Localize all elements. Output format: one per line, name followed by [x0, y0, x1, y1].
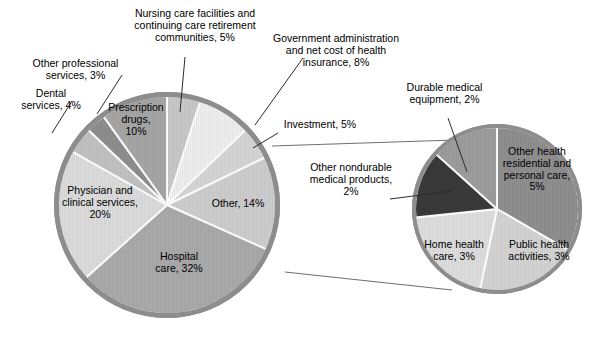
label-other-nondurable: Other nondurable medical products, 2% [297, 162, 405, 197]
label-other-health-residential: Other health residential and personal ca… [494, 146, 580, 193]
label-other-professional: Other professional services, 3% [18, 58, 133, 82]
label-other: Other, 14% [202, 198, 274, 210]
pie-chart-figure: Nursing care facilities and continuing c… [0, 0, 601, 344]
label-hospital-care: Hospital care, 32% [139, 251, 219, 275]
label-dental-services: Dental services, 4% [5, 88, 97, 112]
label-investment: Investment, 5% [275, 119, 365, 131]
label-public-health-activities: Public health activities, 3% [501, 239, 577, 263]
label-physician-clinical: Physician and clinical services, 20% [50, 185, 150, 220]
label-government-admin: Government administration and net cost o… [256, 33, 416, 68]
label-prescription-drugs: Prescription drugs, 10% [95, 102, 177, 137]
label-home-health-care: Home health care, 3% [416, 239, 492, 263]
label-durable-medical-equipment: Durable medical equipment, 2% [392, 82, 497, 106]
